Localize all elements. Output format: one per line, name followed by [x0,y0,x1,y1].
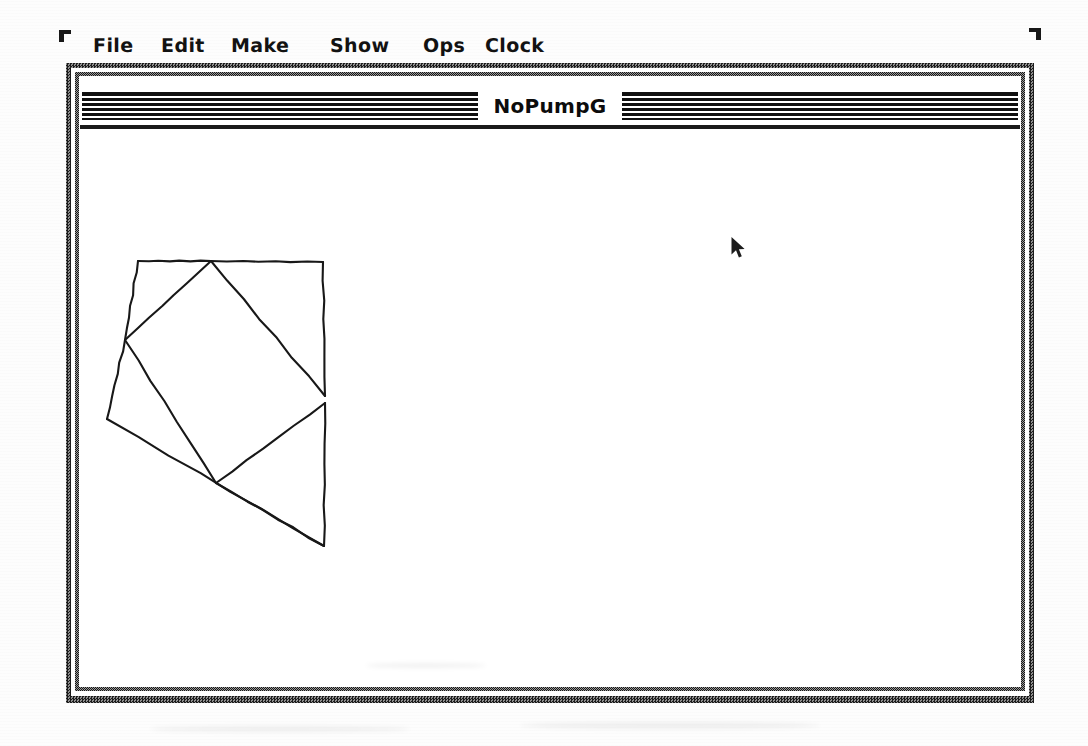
scan-artifact [520,722,820,729]
drawing-canvas[interactable] [82,131,1018,674]
screenshot-root: File Edit Make Show Ops Clock NoPumpG [0,0,1088,746]
graph-edge [211,261,323,262]
graph-edge [216,483,324,546]
graph-edge [216,403,325,483]
graph-edge [125,340,216,483]
menu-item-edit[interactable]: Edit [161,34,205,58]
menu-item-clock[interactable]: Clock [485,34,544,58]
scan-artifact [366,663,486,668]
scan-artifact [150,726,410,732]
graph-edge [323,262,325,396]
graph-edge [107,340,125,419]
polygon-graph-drawing [82,131,1018,674]
title-bar-divider [80,125,1020,129]
menu-item-show[interactable]: Show [330,34,389,58]
graph-edge [211,261,325,396]
menu-item-ops[interactable]: Ops [423,34,465,58]
menu-item-make[interactable]: Make [231,34,289,58]
graph-edge [125,261,138,340]
window-title: NoPumpG [478,94,621,118]
application-window: NoPumpG [66,63,1034,703]
title-stripes-right [622,92,1018,120]
menu-item-file[interactable]: File [93,34,134,58]
graph-edge [125,261,211,340]
title-stripes-left [82,92,478,120]
window-title-bar[interactable]: NoPumpG [82,89,1018,123]
menu-bar: File Edit Make Show Ops Clock [0,34,1088,62]
graph-edge [138,261,211,262]
graph-edge [324,403,326,546]
arrow-pointer-icon [730,236,748,260]
